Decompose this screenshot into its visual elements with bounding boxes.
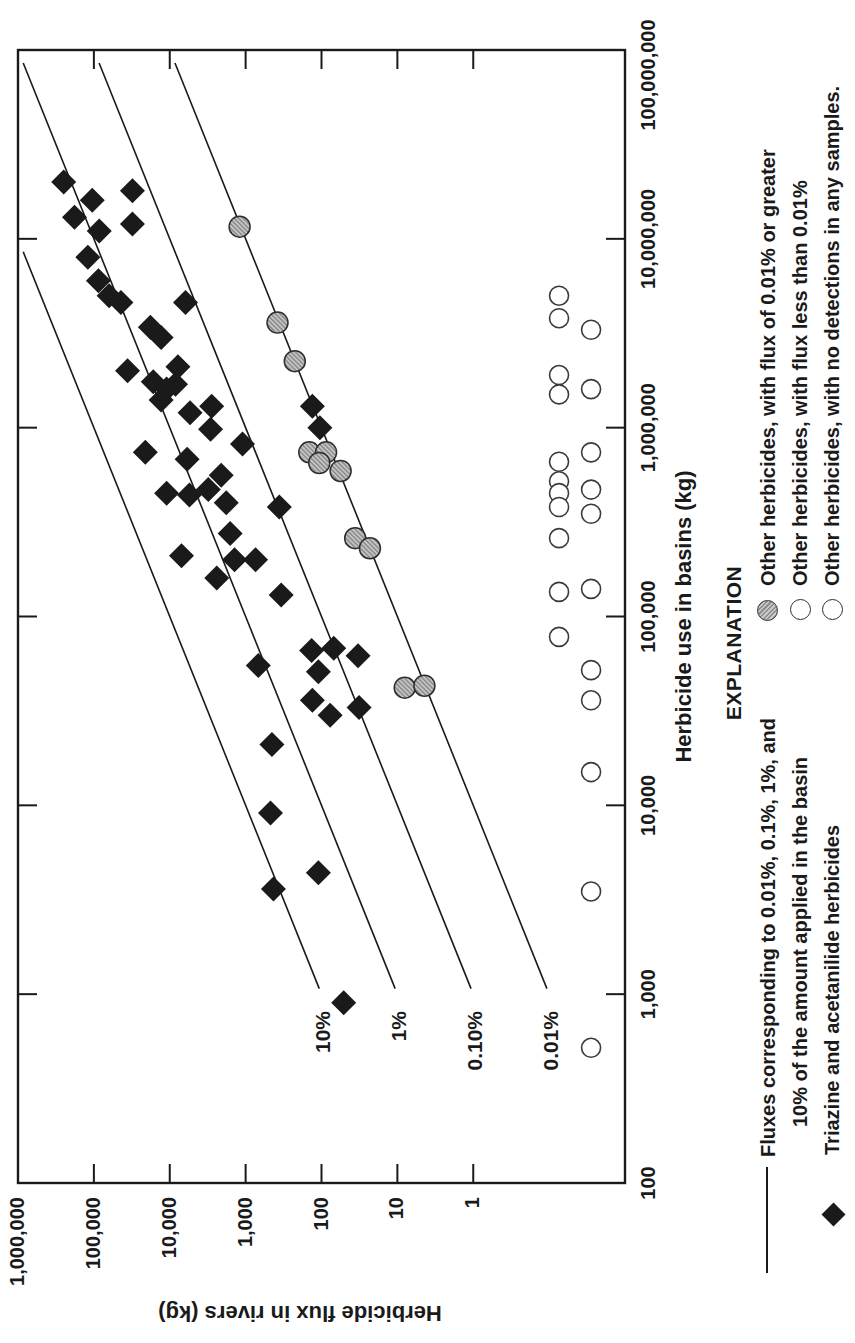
no-detection-circle-marker (582, 579, 601, 598)
triazine-diamond-marker (347, 695, 372, 720)
gray-circle-marker (414, 675, 435, 696)
triazine-diamond-marker (243, 547, 268, 572)
no-detection-circle-marker (582, 763, 601, 782)
x-tick-label: 100,000 (637, 580, 660, 652)
ref-line-label-1pct: 1% (387, 1011, 411, 1041)
x-tick-label: 1,000 (637, 969, 660, 1019)
ref-line-label-10pct: 10% (311, 1011, 335, 1053)
triazine-diamond-marker (154, 481, 179, 506)
triazine-diamond-marker (173, 290, 198, 315)
gray-circle-marker (330, 460, 351, 481)
triazine-diamond-marker (267, 495, 292, 520)
triazine-diamond-marker (246, 653, 271, 678)
triazine-diamond-marker (230, 431, 255, 456)
triazine-diamond-marker (300, 688, 325, 713)
triazine-diamond-marker (307, 415, 332, 440)
open-circle-marker (550, 309, 569, 328)
no-detection-circle-marker (582, 504, 601, 523)
legend-ref-line-label-line2: 10% of the amount applied in the basin (789, 757, 812, 1127)
triazine-diamond-marker (62, 205, 87, 230)
no-detection-circle-marker (582, 380, 601, 399)
triazine-diamond-marker (300, 394, 325, 419)
triazine-diamond-marker (198, 417, 223, 442)
triazine-diamond-marker (51, 169, 76, 194)
gray-circle-marker (394, 677, 415, 698)
no-detection-circle-marker (582, 661, 601, 680)
gray-circle-marker (229, 216, 250, 237)
triazine-diamond-marker (120, 178, 145, 203)
open-circle-marker (550, 627, 569, 646)
gray-circle-marker (309, 452, 330, 473)
legend-ref-line-symbol (766, 1167, 768, 1273)
triazine-diamond-marker (177, 482, 202, 507)
open-circle-marker (550, 385, 569, 404)
triazine-diamond-marker (199, 394, 224, 419)
triazine-diamond-marker (80, 188, 105, 213)
triazine-diamond-marker (259, 732, 284, 757)
open-circle-marker (550, 529, 569, 548)
triazine-diamond-marker (306, 659, 331, 684)
triazine-diamond-marker (214, 490, 239, 515)
x-tick-label: 100,000,000 (637, 19, 660, 130)
open-circle-marker (550, 452, 569, 471)
x-tick-label: 100 (637, 1166, 660, 1199)
gray-circle-marker (284, 351, 305, 372)
no-detection-circle-marker (582, 443, 601, 462)
x-tick-label: 10,000 (637, 775, 660, 836)
triazine-diamond-marker (321, 636, 346, 661)
triazine-diamond-marker (169, 543, 194, 568)
legend-open-circle-label-2: Other herbicides, with no detections in … (821, 86, 844, 586)
triazine-diamond-marker (346, 643, 371, 668)
y-tick-label: 1,000,000 (6, 1197, 29, 1343)
triazine-diamond-marker (133, 440, 158, 465)
legend-gray-circle-label: Other herbicides, with flux of 0.01% or … (757, 149, 780, 586)
triazine-diamond-marker (87, 219, 112, 244)
legend-open-circle-icon-2 (822, 599, 843, 620)
no-detection-circle-marker (582, 691, 601, 710)
legend-open-circle-icon-1 (790, 599, 811, 620)
open-circle-marker (550, 582, 569, 601)
open-circle-marker (550, 498, 569, 517)
no-detection-circle-marker (582, 1038, 601, 1057)
x-tick-label: 1,000,000 (637, 383, 660, 472)
scanned-figure-page: 1001,00010,000100,0001,000,00010,000,000… (0, 0, 855, 1343)
no-detection-circle-marker (582, 882, 601, 901)
triazine-diamond-marker (318, 703, 343, 728)
triazine-diamond-marker (218, 521, 243, 546)
ref-line-label-0.10pct: 0.10% (463, 1011, 487, 1071)
open-circle-marker (550, 286, 569, 305)
triazine-diamond-marker (178, 400, 203, 425)
gray-circle-marker (267, 312, 288, 333)
open-circle-marker (550, 366, 569, 385)
legend-title: EXPLANATION (722, 503, 746, 783)
no-detection-circle-marker (582, 320, 601, 339)
triazine-diamond-marker (299, 638, 324, 663)
gray-circle-marker (359, 538, 380, 559)
x-tick-label: 10,000,000 (637, 189, 660, 289)
legend-ref-line-label-line1: Fluxes corresponding to 0.01%, 0.1%, 1%,… (757, 718, 780, 1157)
triazine-diamond-marker (258, 801, 283, 826)
legend-gray-circle-icon (757, 600, 778, 621)
triazine-diamond-marker (269, 582, 294, 607)
no-detection-circle-marker (582, 480, 601, 499)
triazine-diamond-marker (75, 245, 100, 270)
rotated-chart-stage: 1001,00010,000100,0001,000,00010,000,000… (0, 0, 855, 1343)
x-axis-title: Herbicide use in basins (kg) (671, 50, 697, 1183)
ref-line-1% (23, 63, 395, 989)
ref-line-0.10% (99, 63, 471, 989)
y-axis-title-text: Herbicide flux in rivers (kg) (158, 1300, 442, 1326)
triazine-diamond-marker (306, 860, 331, 885)
y-tick-label: 1 (461, 1197, 484, 1343)
ref-line-label-0.01pct: 0.01% (539, 1011, 563, 1071)
legend-open-circle-label-1: Other herbicides, with flux less than 0.… (789, 180, 812, 586)
triazine-diamond-marker (115, 358, 140, 383)
triazine-diamond-marker (204, 565, 229, 590)
legend-triazine-label: Triazine and acetanilide herbicides (821, 825, 844, 1155)
triazine-diamond-marker (120, 211, 145, 236)
y-tick-label: 100,000 (82, 1197, 105, 1343)
